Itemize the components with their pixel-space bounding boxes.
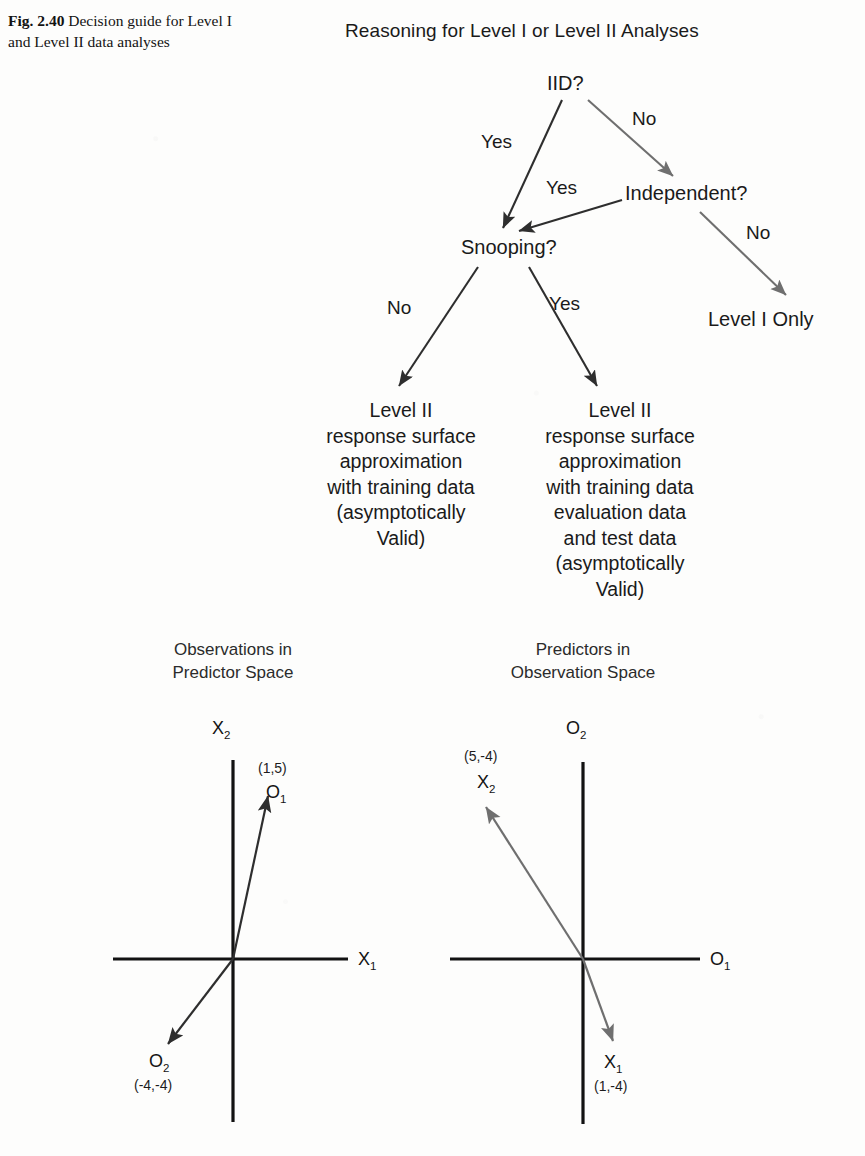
right-plot-vector-x1 — [583, 959, 613, 1041]
right-plot-x1-name: X — [604, 1052, 616, 1072]
right-plot-vector-x2 — [486, 807, 583, 959]
right-plot-x2-sub: 2 — [489, 783, 495, 795]
right-plot-x-axis-label: O1 — [710, 949, 730, 972]
right-plot-x1-sub: 1 — [616, 1063, 622, 1075]
right-plot-x2-label: X2 — [477, 772, 495, 795]
right-plot-y-axis-label-text: O — [566, 718, 580, 738]
right-plot-x-axis-label-sub: 1 — [724, 960, 730, 972]
right-plot-x2-coord: (5,-4) — [464, 748, 497, 764]
right-plot-x1-label: X1 — [604, 1052, 622, 1075]
right-plot-x1-coord: (1,-4) — [594, 1078, 627, 1094]
right-plot-x-axis-label-text: O — [710, 949, 724, 969]
right-plot-y-axis-label: O2 — [566, 718, 586, 741]
right-plot-x2-name: X — [477, 772, 489, 792]
right-vector-plot — [0, 0, 865, 1156]
right-plot-y-axis-label-sub: 2 — [580, 729, 586, 741]
